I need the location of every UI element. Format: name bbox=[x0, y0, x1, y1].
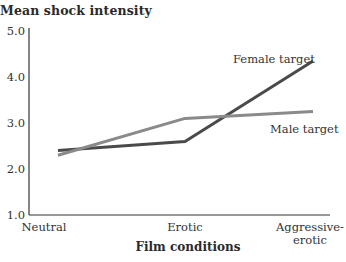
line-chart: 1.02.03.04.05.0NeutralEroticAggressive-e… bbox=[0, 0, 346, 262]
y-tick-label: 2.0 bbox=[7, 162, 25, 176]
y-tick-label: 3.0 bbox=[7, 116, 25, 130]
x-category-label: Erotic bbox=[167, 220, 203, 234]
series-lines bbox=[58, 61, 313, 155]
series-labels: Female targetMale target bbox=[233, 52, 339, 136]
series-line bbox=[58, 61, 313, 151]
y-tick-label: 4.0 bbox=[7, 70, 25, 84]
x-category-label: Aggressive- bbox=[275, 220, 344, 234]
x-axis-label: Film conditions bbox=[0, 240, 346, 254]
y-tick-label: 5.0 bbox=[7, 24, 25, 38]
series-label-male: Male target bbox=[270, 122, 339, 136]
x-category-label: Neutral bbox=[22, 220, 67, 234]
series-label-female: Female target bbox=[233, 52, 315, 66]
